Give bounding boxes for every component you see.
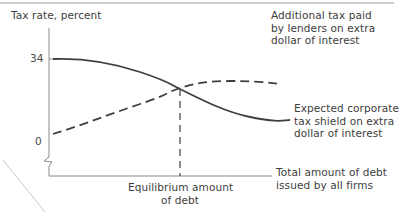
lender-tax-label: Additional tax paid by lenders on extra … bbox=[271, 9, 375, 47]
corporate-shield-label-line-3: dollar of interest bbox=[294, 127, 399, 140]
y-axis-title: Tax rate, percent bbox=[11, 9, 102, 22]
x-axis-title: Total amount of debt issued by all firms bbox=[276, 166, 387, 191]
corporate-shield-label-line-1: Expected corporate bbox=[294, 102, 399, 115]
x-axis-title-line-1: Total amount of debt bbox=[276, 166, 387, 179]
corporate-tax-shield-curve bbox=[53, 59, 290, 121]
lender-tax-label-line-3: dollar of interest bbox=[271, 34, 375, 47]
y-tick-label-34: 34 bbox=[30, 52, 43, 64]
x-axis-title-line-2: issued by all firms bbox=[276, 179, 387, 192]
lender-tax-label-line-1: Additional tax paid bbox=[271, 9, 375, 22]
corporate-shield-label-line-2: tax shield on extra bbox=[294, 115, 399, 128]
equilibrium-label-line-1: Equilibrium amount bbox=[128, 181, 232, 194]
lender-tax-curve bbox=[53, 81, 280, 134]
axis-break-icon bbox=[44, 157, 52, 166]
y-tick-label-0: 0 bbox=[35, 135, 42, 147]
corporate-shield-label: Expected corporate tax shield on extra d… bbox=[294, 102, 399, 140]
lender-tax-label-line-2: by lenders on extra bbox=[271, 22, 375, 35]
equilibrium-label: Equilibrium amount of debt bbox=[128, 181, 232, 206]
equilibrium-label-line-2: of debt bbox=[128, 194, 232, 207]
decorative-diagonal bbox=[3, 160, 45, 212]
